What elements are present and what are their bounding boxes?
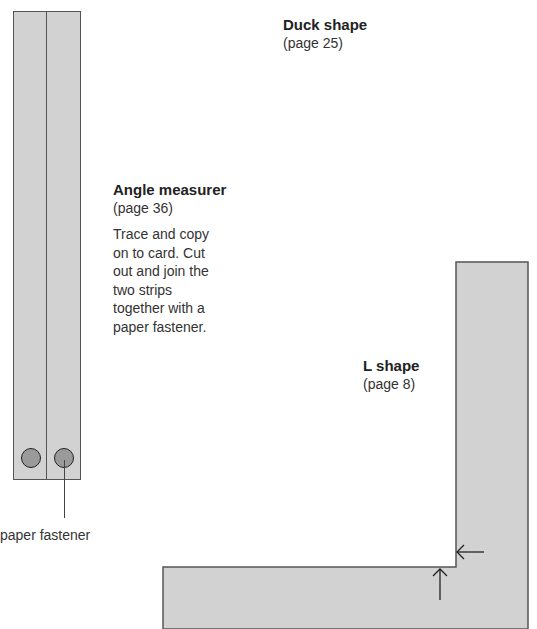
l-shape xyxy=(0,0,537,629)
